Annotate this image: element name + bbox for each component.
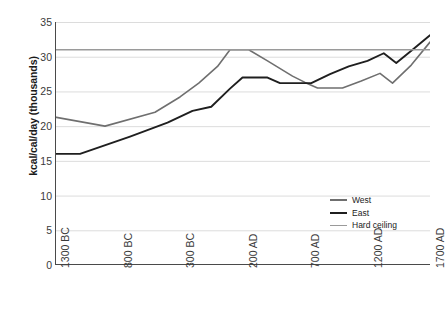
x-tick-label: 700 AD [309,208,321,268]
x-tick-label: 1700 AD [434,208,446,268]
legend-color-swatch [330,225,347,226]
legend-label: Hard ceiling [352,219,397,232]
x-tick-label: 200 AD [247,208,259,268]
chart-container: kcal/cal/day (thousands) 05101520253035 … [0,0,448,318]
x-tick-label: 300 BC [184,208,196,268]
x-axis-tick-labels: 1300 BC800 BC300 BC200 AD700 AD1200 AD17… [0,0,448,318]
chart-legend: WestEastHard ceiling [330,194,397,232]
legend-item: West [330,194,397,207]
legend-label: West [352,194,371,207]
x-tick-label: 800 BC [122,208,134,268]
legend-color-swatch [330,212,347,214]
legend-item: East [330,207,397,220]
legend-label: East [352,207,369,220]
legend-color-swatch [330,199,347,201]
legend-item: Hard ceiling [330,219,397,232]
x-tick-label: 1300 BC [59,208,71,268]
